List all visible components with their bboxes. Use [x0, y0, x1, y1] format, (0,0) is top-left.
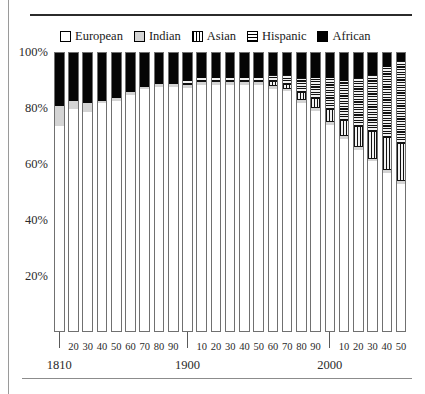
y-axis-tick-20: 20% — [25, 269, 48, 284]
legend-label-asian: Asian — [207, 30, 236, 43]
bar-segment-african — [226, 53, 235, 78]
bar-1950[interactable] — [253, 52, 264, 332]
bar-2000[interactable] — [325, 52, 336, 332]
bar-segment-african — [83, 53, 92, 103]
x-axis-tick-1890: 90 — [168, 341, 179, 352]
y-axis-tick-80: 80% — [25, 101, 48, 116]
legend-label-european: European — [75, 30, 123, 43]
bar-segment-african — [212, 53, 221, 78]
x-axis-era-label-1900: 1900 — [175, 358, 200, 373]
bar-segment-african — [269, 53, 278, 75]
bar-segment-african — [140, 53, 149, 87]
bar-segment-asian — [340, 121, 349, 136]
bar-1820[interactable] — [68, 52, 79, 332]
bar-segment-african — [354, 53, 363, 78]
legend-item-hispanic[interactable]: Hispanic — [247, 30, 306, 43]
bar-2030[interactable] — [367, 52, 378, 332]
x-axis-tick-2010: 10 — [339, 341, 350, 352]
bar-1910[interactable] — [196, 52, 207, 332]
plot-area — [54, 52, 410, 332]
legend-item-asian[interactable]: Asian — [192, 30, 236, 43]
bar-segment-african — [183, 53, 192, 81]
bar-segment-hispanic — [326, 78, 335, 110]
bar-segment-hispanic — [311, 78, 320, 99]
bar-segment-european — [269, 89, 278, 332]
x-axis-tick-1910: 10 — [196, 341, 207, 352]
bar-segment-asian — [311, 99, 320, 108]
x-axis-tick-1830: 30 — [83, 341, 94, 352]
x-axis-era-tick-2000 — [329, 332, 330, 348]
bar-1920[interactable] — [211, 52, 222, 332]
bar-2040[interactable] — [382, 52, 393, 332]
bar-segment-african — [326, 53, 335, 78]
y-axis-tick-100: 100% — [19, 45, 48, 60]
bar-1850[interactable] — [111, 52, 122, 332]
x-axis-tick-2030: 30 — [367, 341, 378, 352]
bar-1900[interactable] — [182, 52, 193, 332]
legend-item-european[interactable]: European — [60, 30, 123, 43]
bar-segment-european — [240, 85, 249, 332]
bar-segment-european — [140, 89, 149, 332]
figure-bottom-rule — [22, 378, 412, 379]
bar-1860[interactable] — [125, 52, 136, 332]
bar-segment-hispanic — [354, 78, 363, 127]
x-axis-tick-1940: 40 — [239, 341, 250, 352]
bar-segment-hispanic — [297, 78, 306, 93]
bar-2050[interactable] — [396, 52, 407, 332]
bar-segment-african — [283, 53, 292, 75]
x-axis-tick-1970: 70 — [282, 341, 293, 352]
y-axis-tick-60: 60% — [25, 157, 48, 172]
x-axis-tick-1990: 90 — [310, 341, 321, 352]
x-axis-era-tick-1900 — [187, 332, 188, 348]
figure-top-rule — [30, 14, 412, 16]
x-axis-tick-1980: 80 — [296, 341, 307, 352]
bar-segment-indian — [69, 101, 78, 109]
bar-segment-hispanic — [340, 81, 349, 121]
bar-segment-african — [98, 53, 107, 101]
bar-segment-african — [311, 53, 320, 78]
x-axis-tick-1950: 50 — [253, 341, 264, 352]
bar-1870[interactable] — [139, 52, 150, 332]
bar-segment-european — [183, 88, 192, 332]
legend-item-indian[interactable]: Indian — [134, 30, 181, 43]
bar-1980[interactable] — [296, 52, 307, 332]
chart-legend: EuropeanIndianAsianHispanicAfrican — [60, 28, 410, 44]
bar-2020[interactable] — [353, 52, 364, 332]
bar-segment-hispanic — [269, 75, 278, 82]
bar-segment-european — [126, 95, 135, 332]
bar-segment-european — [112, 101, 121, 332]
bar-1830[interactable] — [82, 52, 93, 332]
legend-item-african[interactable]: African — [317, 30, 370, 43]
bar-segment-african — [297, 53, 306, 78]
bar-1990[interactable] — [310, 52, 321, 332]
x-axis-tick-2050: 50 — [396, 341, 407, 352]
black-square-icon — [317, 31, 328, 42]
bar-1810[interactable] — [54, 52, 65, 332]
vertical-stripe-square-icon — [192, 31, 203, 42]
horizontal-stripe-square-icon — [247, 31, 258, 42]
bar-segment-african — [240, 53, 249, 78]
bar-segment-african — [397, 53, 406, 61]
bar-segment-hispanic — [283, 75, 292, 84]
bar-segment-european — [340, 139, 349, 332]
bar-segment-asian — [354, 127, 363, 148]
x-axis-era-label-2000: 2000 — [317, 358, 342, 373]
bar-1960[interactable] — [268, 52, 279, 332]
bar-2010[interactable] — [339, 52, 350, 332]
bar-1940[interactable] — [239, 52, 250, 332]
x-axis-tick-2020: 20 — [353, 341, 364, 352]
bar-segment-european — [311, 111, 320, 332]
bar-1890[interactable] — [168, 52, 179, 332]
bar-1930[interactable] — [225, 52, 236, 332]
bar-segment-african — [69, 53, 78, 101]
bar-segment-asian — [297, 93, 306, 100]
bar-segment-european — [226, 85, 235, 332]
x-axis-tick-1880: 80 — [154, 341, 165, 352]
bar-1840[interactable] — [97, 52, 108, 332]
bar-1970[interactable] — [282, 52, 293, 332]
bar-segment-european — [55, 126, 64, 332]
bar-1880[interactable] — [154, 52, 165, 332]
bar-segment-european — [212, 85, 221, 332]
bar-segment-hispanic — [368, 75, 377, 132]
x-axis-tick-2040: 40 — [382, 341, 393, 352]
